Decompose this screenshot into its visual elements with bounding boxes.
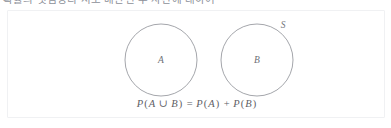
formula-var-b1: B (171, 98, 177, 109)
union-operator: ∪ (155, 98, 171, 109)
equals-operator: = (183, 98, 196, 109)
plus-operator: + (220, 98, 233, 109)
label-set-a: A (157, 55, 164, 65)
formula-p2: P (196, 98, 202, 109)
probability-formula: P(A ∪ B) = P(A) + P(B) (8, 97, 386, 109)
formula-close-paren-3: ) (252, 98, 258, 109)
content-panel: A B S P(A ∪ B) = P(A) + P(B) (7, 10, 385, 118)
clipped-heading-text: 확률의 덧셈정리 서로 배반인 두 사건에 대하여 (3, 0, 216, 5)
formula-p3: P (233, 98, 239, 109)
formula-var-a2: A (208, 98, 214, 109)
label-universe-s: S (281, 20, 286, 30)
label-set-b: B (254, 55, 260, 65)
clipped-heading-strip: 확률의 덧셈정리 서로 배반인 두 사건에 대하여 (0, 0, 391, 5)
formula-var-b2: B (245, 98, 251, 109)
